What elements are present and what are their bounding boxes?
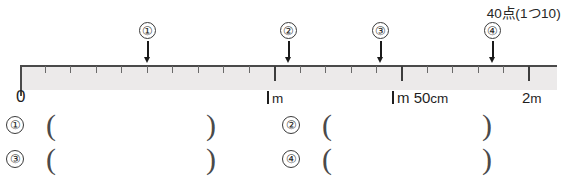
- marker-circled-number: ②: [280, 22, 297, 39]
- arrow-down-icon: [285, 57, 291, 63]
- ruler-tick: [351, 66, 352, 73]
- arrow-down-icon: [144, 57, 150, 63]
- arrow-shaft-icon: [147, 41, 148, 58]
- paren-close: ): [482, 109, 492, 141]
- axis-label-2m: 2m: [522, 90, 542, 106]
- ruler-tick: [96, 66, 97, 73]
- ruler-tick: [223, 66, 224, 73]
- answer-number-4: ④: [282, 150, 300, 168]
- answer-number-1: ①: [6, 116, 24, 134]
- answer-row: ③ ( ) ④ ( ): [0, 146, 567, 178]
- answer-number-2: ②: [282, 116, 300, 134]
- marker-circled-number: ③: [372, 22, 389, 39]
- arrow-shaft-icon: [288, 41, 289, 58]
- axis-unit: m: [272, 91, 283, 106]
- paren-close: ): [206, 143, 216, 175]
- ruler-tick-major-1m50: [401, 66, 403, 81]
- one-stroke-glyph: [267, 91, 269, 104]
- arrow-down-icon: [377, 57, 383, 63]
- arrow-shaft-icon: [492, 41, 493, 58]
- paren-open: (: [322, 143, 332, 175]
- ruler-top-line: [20, 65, 557, 67]
- ruler-tick: [249, 66, 250, 73]
- one-stroke-glyph: [392, 91, 394, 104]
- score-note: 40点(1つ10): [487, 2, 561, 22]
- ruler-tick-major-1m: [274, 66, 276, 81]
- ruler-tick: [427, 66, 428, 73]
- arrow-shaft-icon: [380, 41, 381, 58]
- ruler-tick: [70, 66, 71, 73]
- worksheet: 40点(1つ10) 0 m m 50cm: [0, 0, 567, 183]
- axis-unit: cm: [430, 91, 448, 106]
- answer-number-3: ③: [6, 150, 24, 168]
- ruler-tick: [478, 66, 479, 73]
- axis-unit: m: [530, 91, 541, 106]
- axis-label-1m50cm: m 50cm: [392, 90, 448, 106]
- marker-circled-number: ④: [484, 22, 501, 39]
- ruler-tick: [452, 66, 453, 73]
- ruler-tick: [300, 66, 301, 73]
- ruler-tick: [121, 66, 122, 73]
- paren-open: (: [46, 143, 56, 175]
- answer-row: ① ( ) ② ( ): [0, 112, 567, 144]
- ruler-tick: [172, 66, 173, 73]
- ruler-band: [20, 66, 557, 90]
- ruler-tick: [198, 66, 199, 73]
- paren-open: (: [322, 109, 332, 141]
- answer-area: ① ( ) ② ( ) ③ ( ) ④ ( ): [0, 112, 567, 183]
- paren-close: ): [482, 143, 492, 175]
- ruler-tick: [376, 66, 377, 73]
- axis-value: m 50: [397, 89, 430, 106]
- arrow-down-icon: [489, 57, 495, 63]
- ruler-tick: [503, 66, 504, 73]
- axis-label-1m: m: [267, 90, 283, 106]
- marker-circled-number: ①: [139, 22, 156, 39]
- ruler-diagram: 0 m m 50cm 2m ① ② ③ ④: [0, 22, 567, 104]
- paren-close: ): [206, 109, 216, 141]
- ruler-tick: [325, 66, 326, 73]
- ruler-tick: [147, 66, 148, 73]
- axis-label-zero: 0: [16, 88, 25, 105]
- ruler-tick: [45, 66, 46, 73]
- ruler-tick-major-2m: [528, 66, 530, 81]
- paren-open: (: [46, 109, 56, 141]
